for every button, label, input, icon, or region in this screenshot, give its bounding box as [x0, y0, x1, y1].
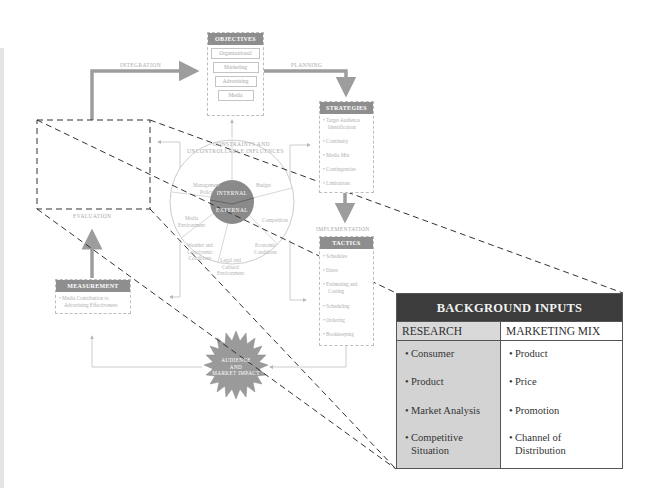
- measurement-item: • Media Contribution to: [56, 295, 130, 302]
- measurement-title: MEASUREMENT: [56, 280, 130, 292]
- marketing-mix-item: •Channel ofDistribution: [501, 431, 622, 457]
- tactic-item: • Bookkeeping: [320, 331, 373, 338]
- constraints-label-1: CONSTRAINTS AND: [213, 141, 270, 147]
- strategy-item: • Target Audience: [320, 117, 373, 124]
- wheel-label-economic: EconomicConditions: [254, 242, 277, 255]
- marketing-mix-header: MARKETING MIX: [501, 322, 622, 341]
- objective-item: Advertising: [215, 76, 257, 87]
- implementation-label: IMPLEMENTATION: [316, 226, 370, 232]
- objective-item: Marketing: [213, 62, 259, 73]
- wheel-label-media-environment: MediaEnvironment: [178, 215, 205, 228]
- marketing-mix-item: •Promotion: [501, 404, 622, 417]
- marketing-mix-item: •Price: [501, 375, 622, 388]
- marketing-mix-column: MARKETING MIX •Product •Price •Promotion…: [501, 322, 622, 468]
- research-column: RESEARCH •Consumer •Product •Market Anal…: [397, 322, 501, 468]
- integration-arrow: [92, 71, 196, 120]
- research-item: •Market Analysis: [397, 404, 500, 417]
- objective-item: Organizational: [211, 48, 260, 59]
- tactic-item: • Ordering: [320, 317, 373, 324]
- tactic-item: • Scheduling: [320, 303, 373, 310]
- background-inputs-table: BACKGROUND INPUTS RESEARCH •Consumer •Pr…: [396, 293, 623, 469]
- wheel-label-weather: Weather andCataclysmicConditions: [187, 242, 213, 262]
- strategy-item: • Continuity: [320, 138, 373, 145]
- wheel-label-budget: Budget: [256, 182, 271, 189]
- strategy-item: • Media Mix: [320, 152, 373, 159]
- objectives-box: OBJECTIVES Organizational Marketing Adve…: [207, 32, 264, 116]
- tactic-item: Costing: [320, 288, 373, 295]
- background-inputs-title: BACKGROUND INPUTS: [397, 294, 622, 322]
- wheel-label-competition: Competition: [262, 217, 288, 224]
- tactic-item: • Schedules: [320, 253, 373, 260]
- hub-external-label: EXTERNAL: [214, 207, 250, 213]
- strategy-item: • Contingencies: [320, 166, 373, 173]
- tactic-item: • Estimating and: [320, 281, 373, 288]
- starburst-label: AUDIENCE AND MARKET IMPACT: [200, 357, 272, 377]
- integration-label: INTEGRATION: [120, 62, 161, 68]
- planning-arrow: [264, 71, 346, 94]
- objectives-title: OBJECTIVES: [208, 33, 263, 45]
- measurement-item: Advertising Effectiveness: [56, 302, 130, 309]
- planning-label: PLANNING: [291, 62, 322, 68]
- marketing-mix-item: •Product: [501, 347, 622, 360]
- research-item: •CompetitiveSituation: [397, 431, 500, 457]
- tactic-item: • Dates: [320, 267, 373, 274]
- tactics-box: TACTICS • Schedules • Dates • Estimating…: [319, 236, 374, 346]
- strategies-title: STRATEGIES: [320, 102, 373, 114]
- research-item: •Consumer: [397, 347, 500, 360]
- wheel-label-legal: Legal andCulturalEnvironment: [217, 257, 244, 277]
- hub-internal-label: INTERNAL: [214, 190, 250, 196]
- strategy-item: • Limitations: [320, 180, 373, 187]
- research-header: RESEARCH: [397, 322, 500, 341]
- research-item: •Product: [397, 375, 500, 388]
- evaluation-label: EVALUATION: [73, 213, 111, 219]
- measurement-box: MEASUREMENT • Media Contribution to Adve…: [55, 279, 131, 314]
- constraints-label-2: UNCONTROLLABLE INFLUENCES: [187, 148, 284, 154]
- tactics-title: TACTICS: [320, 237, 373, 249]
- strategies-box: STRATEGIES • Target Audience Identificat…: [319, 101, 374, 193]
- strategy-item: Identification: [320, 124, 373, 131]
- objective-item: Media: [218, 90, 254, 101]
